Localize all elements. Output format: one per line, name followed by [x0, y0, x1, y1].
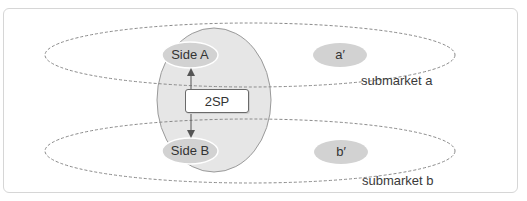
b-prime-label: b′ — [321, 144, 361, 159]
submarket-b-label: submarket b — [362, 173, 434, 188]
platform-2sp-box: 2SP — [185, 89, 249, 113]
a-prime-label: a′ — [320, 47, 360, 62]
submarket-a-label: submarket a — [361, 73, 433, 88]
side-b-label: Side B — [162, 143, 218, 158]
side-a-label: Side A — [162, 47, 218, 62]
diagram-canvas — [0, 0, 527, 201]
